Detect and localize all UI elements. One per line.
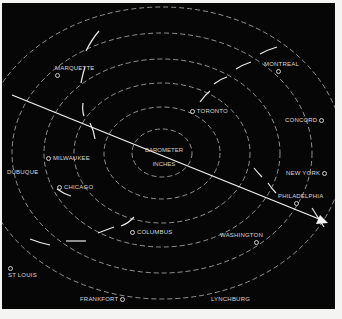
city-dubuque: DUBUQUE <box>7 169 38 176</box>
weather-map: BAROMETER INCHES MARQUETTE MONTREAL TORO… <box>2 3 335 309</box>
pressure-center-label: BAROMETER INCHES <box>139 147 189 167</box>
city-philadelphia: PHILADELPHIA <box>278 193 323 207</box>
city-new-york: NEW YORK <box>286 170 327 177</box>
city-washington: WASHINGTON <box>220 232 263 246</box>
city-concord: CONCORD <box>285 117 324 124</box>
city-chicago: CHICAGO <box>57 184 93 191</box>
city-toronto: TORONTO <box>190 108 228 115</box>
city-montreal: MONTREAL <box>264 61 299 75</box>
city-st-louis: ST LOUIS <box>8 265 37 279</box>
city-frankfort: FRANKFORT <box>80 296 125 303</box>
city-marquette: MARQUETTE <box>55 65 94 79</box>
city-columbus: COLUMBUS <box>130 229 172 236</box>
city-lynchburg: LYNCHBURG <box>211 296 250 303</box>
city-milwaukee: MILWAUKEE <box>46 155 90 162</box>
